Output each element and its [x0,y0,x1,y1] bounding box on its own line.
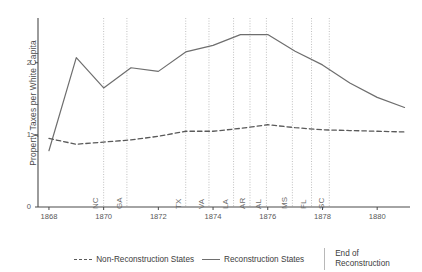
y-tick-label: 1 [9,130,31,139]
y-tick-label: 0 [9,202,31,211]
legend-label-non-reconstruction: Non-Reconstruction States [96,255,194,264]
data-series [49,35,405,151]
state-label-al: AL [254,199,263,209]
x-tick-label: 1878 [305,212,339,221]
solid-line-swatch-icon [202,259,220,260]
state-label-ar: AR [238,198,247,209]
state-label-la: LA [221,199,230,209]
legend-note-line-2: Reconstruction [335,259,390,269]
state-label-ga: GA [115,197,124,209]
x-tick-label: 1872 [141,212,175,221]
axis-lines [38,18,410,207]
state-label-fl: FL [299,200,308,210]
legend-note-end-of-reconstruction: End of Reconstruction [335,249,390,269]
legend-label-reconstruction: Reconstruction States [224,255,304,264]
legend-divider [324,248,325,270]
x-tick-label: 1874 [196,212,230,221]
state-label-ms: MS [280,197,289,209]
x-tick-label: 1868 [32,212,66,221]
state-label-va: VA [197,199,206,209]
legend-note-line-1: End of [335,249,390,259]
chart-legend: Non-Reconstruction States Reconstruction… [0,246,422,272]
state-label-sc: SC [317,198,326,209]
legend-item-non-reconstruction: Non-Reconstruction States [70,255,198,264]
y-tick-label: 2 [9,58,31,67]
plot-area [0,0,422,272]
x-tick-label: 1880 [360,212,394,221]
series-line-reconstruction-states [49,35,405,151]
x-tick-label: 1876 [251,212,285,221]
state-label-nc: NC [91,197,100,209]
legend-item-reconstruction: Reconstruction States [198,255,308,264]
state-label-tx: TX [174,199,183,209]
annotation-gridlines [104,18,330,207]
series-line-non-reconstruction-states [49,125,405,144]
x-tick-label: 1870 [87,212,121,221]
chart-figure: Property Taxes per White Capita NCGATXVA… [0,0,422,272]
dashed-line-swatch-icon [74,259,92,260]
